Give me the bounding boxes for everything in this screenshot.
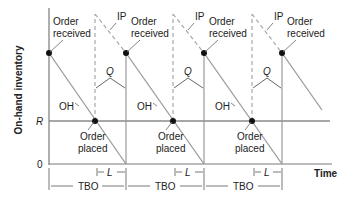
svg-text:Q: Q: [263, 66, 271, 77]
svg-text:IP: IP: [117, 11, 127, 22]
zero-tick-label: 0: [37, 159, 43, 170]
l-labels: L L L: [107, 167, 270, 178]
svg-text:Order: Order: [237, 131, 263, 142]
svg-text:Q: Q: [184, 66, 192, 77]
svg-text:TBO: TBO: [78, 181, 99, 192]
svg-text:OH: OH: [59, 101, 74, 112]
svg-text:Order: Order: [158, 131, 184, 142]
svg-text:IP: IP: [195, 11, 205, 22]
svg-text:Order: Order: [80, 131, 106, 142]
svg-text:IP: IP: [274, 11, 284, 22]
svg-text:received: received: [287, 28, 325, 39]
q-labels: Q Q Q: [106, 66, 271, 77]
x-axis-label: Time: [314, 168, 338, 179]
inventory-diagram: On-hand inventory R 0 Time Order receive…: [0, 0, 353, 197]
svg-text:L: L: [185, 167, 191, 178]
event-dots: [46, 50, 285, 124]
order-received-labels: Order received Order received Order rece…: [53, 16, 325, 39]
r-tick-label: R: [36, 116, 43, 127]
svg-text:received: received: [53, 28, 91, 39]
svg-text:received: received: [131, 28, 169, 39]
svg-text:received: received: [209, 28, 247, 39]
svg-text:OH: OH: [137, 101, 152, 112]
svg-text:Order: Order: [53, 16, 79, 27]
svg-text:L: L: [264, 167, 270, 178]
svg-text:placed: placed: [156, 143, 185, 154]
svg-text:L: L: [107, 167, 113, 178]
svg-text:TBO: TBO: [233, 181, 254, 192]
tbo-labels: TBO TBO TBO: [78, 181, 254, 192]
svg-text:Q: Q: [106, 66, 114, 77]
svg-text:Order: Order: [287, 16, 313, 27]
svg-text:placed: placed: [235, 143, 264, 154]
svg-text:Order: Order: [131, 16, 157, 27]
svg-text:Order: Order: [209, 16, 235, 27]
svg-text:OH: OH: [215, 101, 230, 112]
svg-text:TBO: TBO: [155, 181, 176, 192]
y-axis-label: On-hand inventory: [13, 45, 24, 134]
q-brace: [96, 78, 281, 88]
svg-text:placed: placed: [78, 143, 107, 154]
